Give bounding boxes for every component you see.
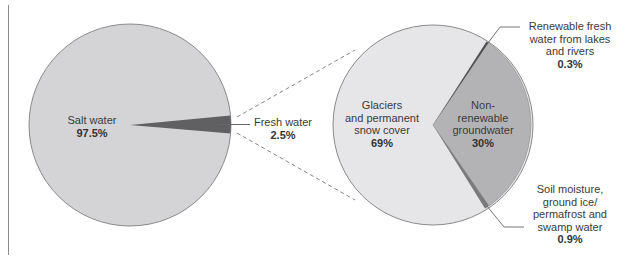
label-soil-moisture: Soil moisture, ground ice/ permafrost an… [520, 183, 620, 246]
label-text: swamp water [520, 221, 620, 234]
label-value: 30% [444, 137, 522, 150]
label-lakes-rivers: Renewable fresh water from lakes and riv… [518, 20, 622, 70]
soil-leader-line [487, 206, 524, 227]
label-text: ground ice/ [520, 196, 620, 209]
label-text: Renewable fresh [518, 20, 622, 33]
label-fresh-water: Fresh water 2.5% [248, 116, 318, 141]
label-text: Salt water [68, 114, 117, 126]
label-text: Non- [444, 99, 522, 112]
label-text: and rivers [518, 45, 622, 58]
label-value: 0.9% [520, 233, 620, 246]
label-text: groundwater [444, 124, 522, 137]
lakes-leader-line [488, 27, 520, 43]
label-text: water from lakes [518, 33, 622, 46]
label-groundwater: Non- renewable groundwater 30% [444, 99, 522, 149]
label-text: and permanent [337, 112, 427, 125]
label-text: Fresh water [254, 116, 312, 128]
label-salt-water: Salt water 97.5% [52, 114, 132, 139]
label-text: permafrost and [520, 208, 620, 221]
label-text: renewable [444, 112, 522, 125]
label-value: 2.5% [248, 129, 318, 142]
label-value: 0.3% [518, 58, 622, 71]
label-text: Soil moisture, [520, 183, 620, 196]
label-text: Glaciers [337, 99, 427, 112]
label-value: 97.5% [52, 127, 132, 140]
label-value: 69% [337, 137, 427, 150]
label-text: snow cover [337, 124, 427, 137]
label-glaciers: Glaciers and permanent snow cover 69% [337, 99, 427, 149]
